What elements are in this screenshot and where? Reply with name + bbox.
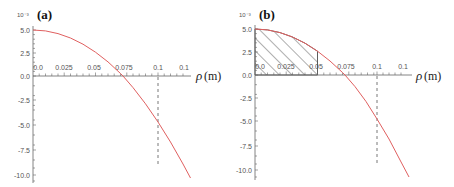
x-axis-unit: (m) [424, 69, 441, 83]
y-tick-label: 5.0 [20, 27, 30, 34]
y-tick-label: 2.5 [242, 49, 252, 56]
x-tick-label: 0.0 [255, 63, 265, 70]
y-tick-label: -2.5 [240, 95, 252, 102]
y-tick-label: -2.5 [18, 97, 30, 104]
x-tick-label: 0.025 [55, 64, 73, 71]
x-tick-label: 0.05 [87, 64, 101, 71]
y-tick-label: 5.0 [242, 26, 252, 33]
y-tick-label: 0.0 [20, 73, 30, 80]
x-axis-symbol: ρ [195, 68, 202, 83]
figure: 10⁻³ (a) 5.0 2.5 0.0 -2.5 -5.0 -7.5 -10.… [0, 0, 454, 187]
x-tick-label: 0.05 [309, 63, 323, 70]
panel-a: 10⁻³ (a) 5.0 2.5 0.0 -2.5 -5.0 -7.5 -10.… [14, 7, 221, 183]
x-tick-label: 0.0 [33, 64, 43, 71]
y-minor-ticks [33, 30, 36, 181]
x-tick-label: 0.1 [372, 63, 382, 70]
x-tick-label: 0.1 [153, 64, 163, 71]
y-tick-label: -5.0 [18, 122, 30, 129]
y-tick-label: -7.5 [240, 143, 252, 150]
x-tick-label: 0.1 [398, 63, 408, 70]
y-tick-label: -10.0 [14, 172, 30, 179]
y-tick-label: -10.0 [236, 167, 252, 174]
y-exponent-label: 10⁻³ [239, 12, 251, 18]
x-minor-ticks [39, 73, 183, 77]
curve [33, 30, 191, 178]
x-tick-label: 0.075 [337, 63, 355, 70]
y-exponent-label: 10⁻³ [17, 12, 29, 18]
y-tick-label: 2.5 [20, 50, 30, 57]
x-axis-symbol: ρ [415, 68, 422, 83]
x-tick-label: 0.1 [179, 64, 189, 71]
y-tick-label: -5.0 [240, 118, 252, 125]
x-tick-label: 0.075 [115, 64, 133, 71]
x-tick-label: 0.025 [277, 63, 295, 70]
panel-label: (a) [37, 7, 52, 22]
y-tick-label: -7.5 [18, 147, 30, 154]
panel-label: (b) [259, 7, 275, 22]
panel-b: 10⁻³ (b) 5.0 2.5 0.0 -2.5 -5.0 -7.5 -10.… [236, 7, 441, 180]
y-tick-label: 0.0 [242, 72, 252, 79]
x-axis-unit: (m) [204, 69, 221, 83]
